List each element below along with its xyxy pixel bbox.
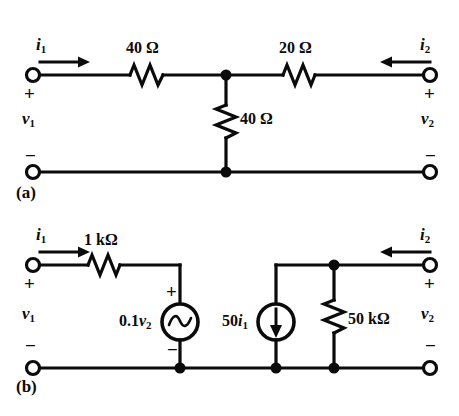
resistor-a-40-left-symbol bbox=[130, 65, 163, 85]
terminal-a-bottom-right bbox=[424, 166, 437, 179]
label-b-resistor-50k: 50 kΩ bbox=[348, 311, 390, 327]
circuit-drawing bbox=[0, 0, 459, 416]
current-arrow-a-i2-head bbox=[380, 57, 392, 68]
label-b-voltage-v1: v1 bbox=[22, 305, 35, 322]
terminal-a-top-left bbox=[27, 69, 40, 82]
junction-a-bottom-center bbox=[221, 167, 232, 178]
label-a-voltage-v1: v1 bbox=[22, 110, 35, 127]
current-arrow-a-i1-head bbox=[78, 57, 90, 68]
label-a-current-i2: i2 bbox=[420, 36, 430, 53]
label-b-polarity-minus-left: − bbox=[25, 336, 36, 355]
junction-b-source-bottom bbox=[175, 363, 186, 374]
terminal-a-top-right bbox=[424, 69, 437, 82]
current-arrow-b-i1-head bbox=[78, 247, 90, 258]
label-b-polarity-minus-right: − bbox=[425, 336, 436, 355]
terminal-b-bottom-right bbox=[424, 362, 437, 375]
label-b-current-i1: i1 bbox=[36, 226, 46, 243]
label-b-polarity-plus-right: + bbox=[424, 274, 435, 293]
label-b-polarity-plus-left: + bbox=[24, 274, 35, 293]
label-a-resistor-40-left: 40 Ω bbox=[126, 40, 159, 56]
terminal-a-bottom-left bbox=[27, 166, 40, 179]
junction-a-top-center bbox=[221, 70, 232, 81]
label-a-polarity-minus-right: − bbox=[425, 146, 436, 165]
circuit-figure: i1 i2 40 Ω 20 Ω 40 Ω + − v1 + − v2 (a) i… bbox=[0, 0, 459, 416]
resistor-a-40-shunt-symbol bbox=[216, 105, 236, 138]
label-part-b: (b) bbox=[16, 378, 37, 395]
label-part-a: (a) bbox=[16, 184, 36, 201]
terminal-b-top-right bbox=[424, 259, 437, 272]
label-b-resistor-1k: 1 kΩ bbox=[84, 232, 118, 248]
junction-b-cccs-bottom bbox=[271, 363, 282, 374]
label-a-voltage-v2: v2 bbox=[421, 110, 434, 127]
label-b-vcvs-value: 0.1v2 bbox=[119, 313, 152, 329]
label-a-resistor-40-shunt: 40 Ω bbox=[240, 111, 273, 127]
label-a-polarity-plus-right: + bbox=[424, 84, 435, 103]
terminal-b-bottom-left bbox=[27, 362, 40, 375]
label-b-cccs-value: 50i1 bbox=[222, 313, 248, 329]
label-a-polarity-plus-left: + bbox=[24, 84, 35, 103]
label-b-voltage-v2: v2 bbox=[421, 305, 434, 322]
label-a-resistor-20: 20 Ω bbox=[279, 40, 312, 56]
label-b-vcvs-plus: + bbox=[166, 282, 177, 301]
label-b-current-i2: i2 bbox=[420, 226, 430, 243]
current-arrow-b-i2-head bbox=[380, 247, 392, 258]
junction-b-shunt-top bbox=[329, 260, 340, 271]
label-b-vcvs-minus: − bbox=[167, 340, 178, 359]
label-a-polarity-minus-left: − bbox=[25, 146, 36, 165]
junction-b-shunt-bottom bbox=[329, 363, 340, 374]
resistor-b-1k-symbol bbox=[88, 255, 120, 275]
terminal-b-top-left bbox=[27, 259, 40, 272]
resistor-b-50k-symbol bbox=[324, 300, 344, 333]
resistor-a-20-symbol bbox=[283, 65, 315, 85]
label-a-current-i1: i1 bbox=[36, 36, 46, 53]
